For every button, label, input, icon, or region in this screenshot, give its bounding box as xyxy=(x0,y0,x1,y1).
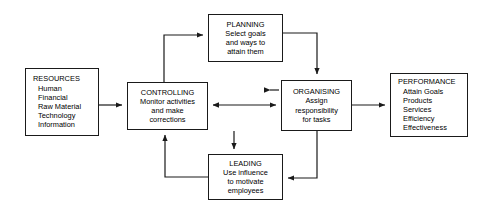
organising-box: ORGANISINGAssignresponsibilityfor tasks xyxy=(281,80,352,131)
controlling-box-line: and make xyxy=(128,106,207,115)
organising-box-line: responsibility xyxy=(282,106,351,115)
performance-box-line: Efficiency xyxy=(398,114,467,123)
leading-box: LEADINGUse influenceto motivateemployees xyxy=(208,154,283,200)
controlling-box-heading: CONTROLLING xyxy=(128,88,207,97)
planning-box-heading: PLANNING xyxy=(209,20,282,29)
performance-box-line: Services xyxy=(398,105,467,114)
organising-box-line: for tasks xyxy=(282,115,351,124)
connector-organising-to-leading xyxy=(288,131,317,178)
performance-box: PERFORMANCEAttain GoalsProductsServicesE… xyxy=(390,73,468,137)
connector-controlling-to-planning xyxy=(164,35,203,82)
controlling-box: CONTROLLINGMonitor activitiesand makecor… xyxy=(127,82,208,130)
organising-box-line: Assign xyxy=(282,96,351,105)
planning-box: PLANNINGSelect goalsand ways toattain th… xyxy=(208,14,283,62)
connector-leading-to-controlling xyxy=(165,135,208,177)
resources-box: RESOURCESHumanFinancialRaw MaterialTechn… xyxy=(25,68,99,136)
connector-planning-to-organising xyxy=(283,33,317,74)
resources-box-line: Human xyxy=(33,84,98,93)
planning-box-line: attain them xyxy=(209,47,282,56)
planning-box-line: Select goals xyxy=(209,29,282,38)
resources-box-heading: RESOURCES xyxy=(33,74,98,83)
performance-box-line: Effectiveness xyxy=(398,123,467,132)
leading-box-line: Use influence xyxy=(209,168,282,177)
performance-box-line: Products xyxy=(398,96,467,105)
resources-box-line: Raw Material xyxy=(33,102,98,111)
resources-box-line: Technology xyxy=(33,111,98,120)
diagram-canvas: RESOURCESHumanFinancialRaw MaterialTechn… xyxy=(0,0,487,214)
planning-box-line: and ways to xyxy=(209,38,282,47)
performance-box-heading: PERFORMANCE xyxy=(398,77,467,86)
leading-box-line: to motivate xyxy=(209,177,282,186)
leading-box-heading: LEADING xyxy=(209,159,282,168)
resources-box-line: Financial xyxy=(33,93,98,102)
leading-box-line: employees xyxy=(209,186,282,195)
resources-box-line: Information xyxy=(33,120,98,129)
controlling-box-line: Monitor activities xyxy=(128,97,207,106)
controlling-box-line: corrections xyxy=(128,115,207,124)
organising-box-heading: ORGANISING xyxy=(282,87,351,96)
performance-box-line: Attain Goals xyxy=(398,87,467,96)
